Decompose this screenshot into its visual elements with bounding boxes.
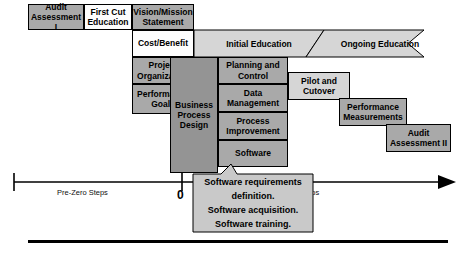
box-label: ProcessImprovement xyxy=(226,116,279,136)
box-label: DataManagement xyxy=(227,88,279,108)
callout-line-1b: definition. xyxy=(199,190,307,202)
band-label: Ongoing Education xyxy=(300,30,456,57)
box-audit-assessment-1: AuditAssessment I xyxy=(28,4,84,30)
box-cost-benefit: Cost/Benefit xyxy=(132,30,194,57)
callout-line-1a: Software requirements xyxy=(199,176,307,188)
box-planning-and-control: Planning andControl xyxy=(218,57,288,84)
box-label: Software xyxy=(235,148,271,158)
box-label: BusinessProcessDesign xyxy=(175,100,213,130)
band-ongoing-education: Ongoing Education xyxy=(300,30,424,57)
box-label: Vision/MissionStatement xyxy=(133,7,192,27)
box-performance-measurements: PerformanceMeasurements xyxy=(339,98,407,126)
callout-line-3: Software training. xyxy=(199,218,307,230)
box-label: Planning andControl xyxy=(226,60,279,80)
callout-software: Software requirements definition. Softwa… xyxy=(193,164,313,232)
box-vision-mission-statement: Vision/MissionStatement xyxy=(132,4,194,30)
timeline-left-label: Pre-Zero Steps xyxy=(57,188,108,197)
box-pilot-and-cutover: Pilot andCutover xyxy=(288,72,350,100)
callout-text: Software requirements definition. Softwa… xyxy=(193,164,313,233)
box-label: AuditAssessment I xyxy=(30,2,82,32)
box-label: Pilot andCutover xyxy=(301,76,337,96)
box-label: PerformanceMeasurements xyxy=(343,102,403,122)
timeline-zero-label: 0 xyxy=(177,188,184,202)
box-software: Software xyxy=(218,140,288,167)
box-label: AuditAssessment II xyxy=(390,128,447,148)
box-data-management: DataManagement xyxy=(218,84,288,112)
box-first-cut-education: First CutEducation xyxy=(84,4,132,30)
box-process-improvement: ProcessImprovement xyxy=(218,112,288,140)
box-business-process-design: BusinessProcessDesign xyxy=(170,57,218,173)
box-audit-assessment-2: AuditAssessment II xyxy=(386,124,451,152)
box-label: First CutEducation xyxy=(87,7,128,27)
callout-line-2: Software acquisition. xyxy=(199,204,307,216)
bottom-divider xyxy=(28,240,448,243)
box-label: Cost/Benefit xyxy=(138,38,188,48)
diagram-canvas: AuditAssessment I First CutEducation Vis… xyxy=(0,0,459,254)
timeline-arrowhead xyxy=(438,175,456,189)
